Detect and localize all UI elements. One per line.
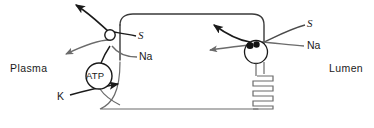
apical-cotransporter (210, 25, 305, 76)
label-potassium: K (57, 91, 64, 102)
label-sodium-left: Na (139, 51, 152, 62)
coiled-tubule (253, 76, 273, 109)
label-substrate-left: S (138, 30, 144, 41)
basolateral-transporter (66, 5, 137, 57)
label-atp: ATP (86, 71, 104, 81)
basolateral-transporter-circle (105, 30, 115, 40)
cell-outline (100, 14, 264, 109)
diagram-canvas (0, 0, 374, 128)
label-lumen: Lumen (329, 63, 363, 74)
membrane-transport-diagram: Plasma Lumen S Na S Na K ATP (0, 0, 374, 128)
label-substrate-right: S (307, 18, 313, 29)
label-sodium-right: Na (307, 40, 320, 51)
apical-transporter-blob-a (246, 42, 253, 49)
label-plasma: Plasma (10, 63, 47, 74)
apical-transporter-blob-b (253, 41, 259, 47)
